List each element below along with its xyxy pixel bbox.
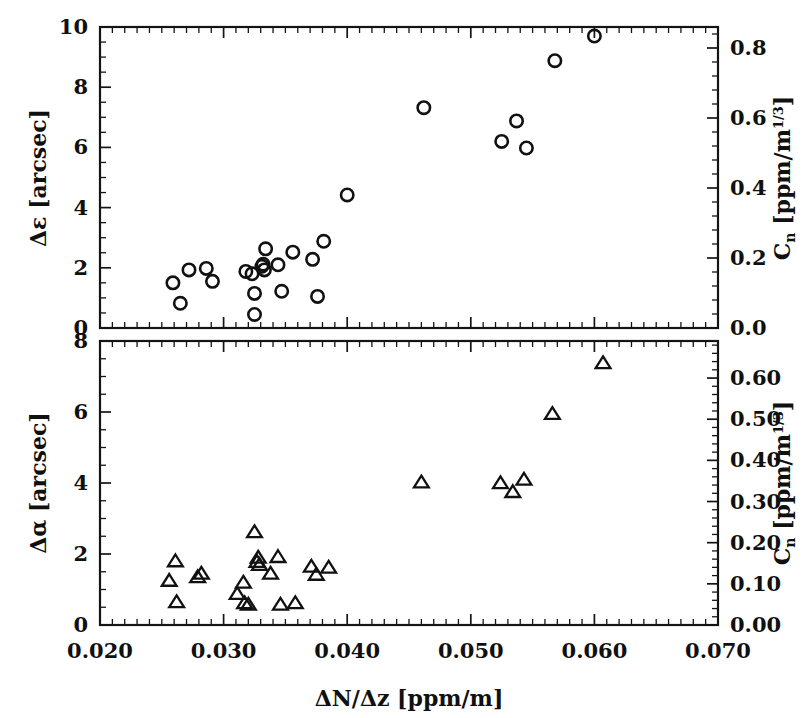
x-ticklabel: 0.030 [191,638,257,663]
y-ticklabel-left: 10 [59,14,88,39]
figure-root: 0246810 0.00.20.40.60.8 Δε [arcsec] Cn [… [0,0,808,718]
y-ticklabel-left: 4 [73,195,88,220]
y-ticklabel-left: 2 [73,541,88,566]
data-point-circle [318,235,330,247]
y-ticklabel-left: 6 [73,399,88,424]
data-point-circle [174,297,186,309]
y-ticklabel-right: 0.2 [730,245,767,270]
data-point-circle [496,135,508,147]
top-panel-y-axis-label: Δε [arcsec] [25,109,51,247]
data-point-circle [248,308,260,320]
y-ticklabel-left: 4 [73,470,88,495]
scatter-figure: 0246810 0.00.20.40.60.8 Δε [arcsec] Cn [… [0,0,808,718]
top-panel-right-ticklabels: 0.00.20.40.60.8 [730,35,767,340]
data-point-circle [275,285,287,297]
cn-exponent: 1/3 [771,106,786,129]
y-ticklabel-left: 8 [73,74,88,99]
data-point-circle [183,264,195,276]
cn-symbol: C [769,548,795,566]
data-point-triangle [162,574,177,586]
top-panel-right-axis-label: Cn [ppm/m1/3] [769,96,798,260]
y-ticklabel-right: 0.60 [730,365,781,390]
data-point-circle [549,55,561,67]
top-panel-datapoints [167,30,601,321]
x-ticklabel: 0.020 [67,638,133,663]
top-panel-frame [100,27,718,328]
data-point-triangle [236,576,251,588]
bottom-panel: 02468 0.000.100.200.300.400.500.60 0.020… [25,328,798,711]
cn-symbol: C [769,243,795,261]
x-axis-ticklabels: 0.0200.0300.0400.0500.0600.070 [67,638,751,663]
data-point-circle [341,189,353,201]
data-point-triangle [168,555,183,567]
y-ticklabel-right: 0.4 [730,175,767,200]
bottom-panel-y-axis-label: Δα [arcsec] [25,412,51,554]
data-point-triangle [493,476,508,488]
data-point-circle [248,287,260,299]
x-axis-label: ΔN/Δz [ppm/m] [315,685,504,711]
data-point-circle [206,275,218,287]
x-ticklabel: 0.060 [562,638,628,663]
data-point-circle [306,253,318,265]
y-ticklabel-right: 0.00 [730,612,781,637]
y-ticklabel-left: 6 [73,134,88,159]
svg-text:Cn [ppm/m1/3]: Cn [ppm/m1/3] [769,96,798,260]
top-panel: 0246810 0.00.20.40.60.8 Δε [arcsec] Cn [… [25,14,798,340]
data-point-triangle [169,595,184,607]
data-point-circle [167,277,179,289]
data-point-circle [510,115,522,127]
cn-subscript: n [782,233,798,243]
data-point-circle [259,243,271,255]
top-panel-ticks [100,27,718,328]
data-point-triangle [247,525,262,537]
y-ticklabel-right: 0.0 [730,315,767,340]
data-point-triangle [321,561,336,573]
x-ticklabel: 0.040 [314,638,380,663]
data-point-triangle [517,473,532,485]
data-point-circle [287,246,299,258]
data-point-triangle [230,587,245,599]
y-ticklabel-left: 8 [73,328,88,353]
data-point-triangle [596,356,611,368]
top-panel-left-ticklabels: 0246810 [59,14,88,340]
bottom-panel-left-ticklabels: 02468 [73,328,88,637]
cn-exponent: 1/3 [771,411,786,434]
x-ticklabel: 0.050 [438,638,504,663]
data-point-triangle [271,550,286,562]
data-point-triangle [273,598,288,610]
y-ticklabel-right: 0.8 [730,35,767,60]
bottom-panel-datapoints [162,356,611,609]
data-point-triangle [545,407,560,419]
data-point-circle [200,262,212,274]
data-point-circle [272,259,284,271]
data-point-triangle [288,596,303,608]
y-ticklabel-right: 0.10 [730,571,781,596]
y-ticklabel-left: 0 [73,612,88,637]
data-point-circle [311,290,323,302]
data-point-triangle [309,568,324,580]
data-point-circle [520,142,532,154]
data-point-circle [418,101,430,113]
x-ticklabel: 0.070 [685,638,751,663]
data-point-triangle [414,476,429,488]
y-ticklabel-left: 2 [73,255,88,280]
y-ticklabel-right: 0.6 [730,105,767,130]
cn-subscript: n [782,538,798,548]
